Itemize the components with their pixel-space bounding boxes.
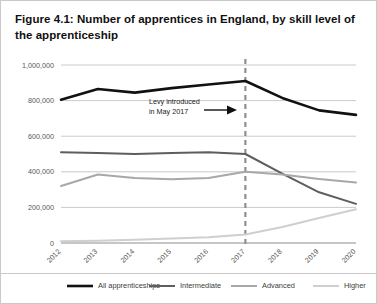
legend-item[interactable]: Advanced (231, 281, 295, 290)
legend-item[interactable]: Higher (313, 281, 366, 290)
x-axis-tick-label: 2018 (266, 247, 284, 265)
annotation-line-2: in May 2017 (149, 107, 188, 116)
annotation-line-1: Levy introduced (149, 97, 200, 106)
y-axis-tick-label: 0 (50, 239, 54, 248)
legend-item[interactable]: All apprenticeships (67, 281, 160, 290)
x-axis-tick-label: 2020 (340, 247, 358, 265)
x-axis-tick-labels: 201220132014201520162017201820192020 (45, 247, 358, 265)
x-axis-tick-label: 2013 (82, 247, 100, 265)
legend-label: Higher (344, 281, 366, 290)
figure-container: Figure 4.1: Number of apprentices in Eng… (0, 0, 377, 304)
legend-label: Intermediate (180, 281, 221, 290)
x-axis-tick-label: 2017 (229, 247, 247, 265)
series-line (61, 209, 356, 241)
right-arrow-icon (204, 105, 237, 114)
y-axis-tick-labels: 0200,000400,000600,000800,0001,000,000 (22, 61, 54, 248)
figure-title: Figure 4.1: Number of apprentices in Eng… (15, 11, 362, 44)
y-axis-tick-label: 200,000 (28, 203, 54, 212)
y-axis-tick-label: 400,000 (28, 167, 54, 176)
x-axis-tick-label: 2016 (192, 247, 210, 265)
x-axis-tick-label: 2014 (118, 247, 136, 265)
levy-annotation: Levy introduced in May 2017 (149, 97, 237, 116)
x-axis-tick-label: 2019 (303, 247, 321, 265)
series-line (61, 172, 356, 186)
data-series-group (61, 81, 356, 241)
legend-label: Advanced (262, 281, 295, 290)
legend-svg: All apprenticeshipsIntermediateAdvancedH… (1, 274, 377, 304)
line-chart: 0200,000400,000600,000800,0001,000,000 2… (1, 57, 377, 273)
chart-plot-area: 0200,000400,000600,000800,0001,000,000 2… (1, 57, 377, 273)
y-axis-tick-label: 800,000 (28, 96, 54, 105)
y-axis-tick-label: 600,000 (28, 132, 54, 141)
y-axis-tick-label: 1,000,000 (22, 61, 54, 70)
x-axis-tick-label: 2015 (155, 247, 173, 265)
chart-legend: All apprenticeshipsIntermediateAdvancedH… (1, 273, 377, 304)
x-axis-tick-label: 2012 (45, 247, 63, 265)
